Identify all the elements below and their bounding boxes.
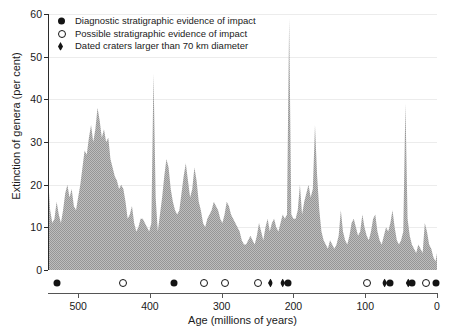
y-tick (44, 14, 48, 15)
y-tick-label: 0 (0, 264, 42, 276)
legend-item: Dated craters larger than 70 km diameter (58, 40, 256, 53)
y-axis-line (48, 14, 49, 270)
y-tick (44, 57, 48, 58)
marker-diagnostic-impact (386, 280, 393, 287)
diamond-icon (58, 42, 63, 51)
x-tick-label: 200 (285, 300, 303, 312)
x-tick (150, 293, 151, 298)
filled-circle-icon (58, 18, 65, 25)
x-tick (293, 293, 294, 298)
marker-diagnostic-impact (408, 280, 415, 287)
legend-item: Possible stratigraphic evidence of impac… (58, 28, 256, 41)
x-axis-line (48, 293, 437, 294)
extinction-chart-figure: 0102030405060 Extinction of genera (per … (0, 0, 455, 331)
marker-possible-impact (363, 279, 371, 287)
y-axis-label: Extinction of genera (per cent) (10, 1, 22, 251)
legend: Diagnostic stratigraphic evidence of imp… (58, 15, 256, 53)
impact-marker-row (48, 276, 437, 290)
x-axis-label: Age (millions of years) (48, 314, 437, 326)
marker-diagnostic-impact (284, 280, 291, 287)
marker-diagnostic-impact (53, 280, 60, 287)
y-tick (44, 142, 48, 143)
x-tick-label: 300 (213, 300, 231, 312)
marker-diagnostic-impact (170, 280, 177, 287)
legend-item-label: Diagnostic stratigraphic evidence of imp… (75, 15, 256, 26)
x-tick (78, 293, 79, 298)
y-tick (44, 227, 48, 228)
x-tick-label: 500 (69, 300, 87, 312)
marker-possible-impact (254, 279, 262, 287)
legend-item-label: Possible stratigraphic evidence of impac… (75, 28, 247, 39)
x-tick-label: 400 (141, 300, 159, 312)
marker-possible-impact (422, 279, 430, 287)
marker-possible-impact (200, 279, 208, 287)
y-tick (44, 99, 48, 100)
legend-item-label: Dated craters larger than 70 km diameter (75, 40, 248, 51)
x-tick (222, 293, 223, 298)
y-tick (44, 185, 48, 186)
x-tick-label: 100 (356, 300, 374, 312)
open-circle-icon (58, 30, 66, 38)
marker-possible-impact (221, 279, 229, 287)
x-tick-label: 0 (434, 300, 440, 312)
marker-diagnostic-impact (432, 280, 439, 287)
y-tick (44, 270, 48, 271)
x-tick (365, 293, 366, 298)
marker-dated-crater (268, 279, 273, 288)
legend-item: Diagnostic stratigraphic evidence of imp… (58, 15, 256, 28)
marker-possible-impact (119, 279, 127, 287)
x-tick (437, 293, 438, 298)
